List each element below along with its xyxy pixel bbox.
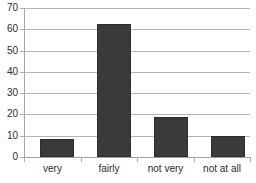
y-tick-30 <box>20 93 24 94</box>
plot-area <box>24 8 250 157</box>
y-tick-20 <box>20 114 24 115</box>
x-tick-3 <box>194 157 195 162</box>
bar-not-very <box>154 117 188 157</box>
y-axis-label-70: 70 <box>0 3 18 13</box>
y-tick-10 <box>20 136 24 137</box>
y-axis-label-50: 50 <box>0 46 18 56</box>
y-axis-line <box>24 8 25 158</box>
x-axis-label-fairly: fairly <box>81 163 137 175</box>
y-tick-60 <box>20 29 24 30</box>
bar-not-at-all <box>211 136 245 157</box>
x-axis-label-not-at-all: not at all <box>194 163 250 175</box>
bar-fairly <box>97 24 131 157</box>
y-axis-label-20: 20 <box>0 109 18 119</box>
y-axis-label-40: 40 <box>0 67 18 77</box>
y-tick-40 <box>20 72 24 73</box>
x-tick-0 <box>24 157 25 162</box>
gridline-30 <box>24 93 250 94</box>
x-axis-label-not-very: not very <box>137 163 194 175</box>
x-tick-1 <box>81 157 82 162</box>
y-tick-70 <box>20 8 24 9</box>
y-axis-label-0: 0 <box>0 152 18 162</box>
x-axis-label-very: very <box>24 163 81 175</box>
y-axis-label-60: 60 <box>0 24 18 34</box>
bar-chart: 70 60 50 40 30 20 10 0 very fairly not v… <box>0 0 256 183</box>
bar-very <box>40 139 74 157</box>
gridline-20 <box>24 114 250 115</box>
gridline-70 <box>24 8 250 9</box>
x-tick-4 <box>250 157 251 162</box>
y-tick-50 <box>20 51 24 52</box>
x-tick-2 <box>137 157 138 162</box>
gridline-60 <box>24 29 250 30</box>
gridline-50 <box>24 51 250 52</box>
y-axis-label-30: 30 <box>0 88 18 98</box>
gridline-40 <box>24 72 250 73</box>
y-axis-label-10: 10 <box>0 131 18 141</box>
